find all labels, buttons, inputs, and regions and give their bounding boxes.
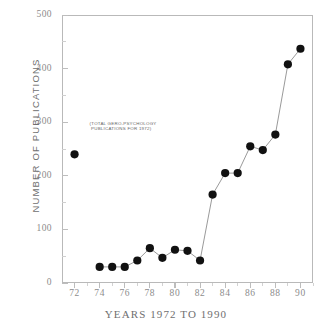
x-tick-label: 90 (287, 288, 313, 298)
x-tick-label: 74 (87, 288, 113, 298)
x-tick-minor (313, 283, 314, 286)
x-tick-label: 72 (62, 288, 88, 298)
y-tick-mark (62, 229, 68, 230)
x-tick-minor (287, 283, 288, 286)
y-tick-label: 0 (18, 278, 52, 287)
x-tick-minor (212, 283, 213, 286)
y-tick-minor (62, 95, 66, 96)
x-tick-minor (112, 283, 113, 286)
y-axis-title: NUMBER OF PUBLICATIONS (30, 31, 41, 241)
x-tick-label: 88 (262, 288, 288, 298)
y-tick-minor (62, 256, 66, 257)
chart-root: 0100200300400500 72747678808284868890 NU… (0, 0, 332, 331)
y-tick-mark (62, 283, 68, 284)
plot-frame (62, 15, 313, 283)
y-tick-label: 500 (18, 10, 52, 19)
y-tick-minor (62, 41, 66, 42)
x-tick-minor (237, 283, 238, 286)
y-tick-mark (62, 175, 68, 176)
x-tick-minor (262, 283, 263, 286)
x-tick-minor (87, 283, 88, 286)
x-tick-label: 76 (112, 288, 138, 298)
x-axis-title: YEARS 1972 TO 1990 (0, 308, 332, 320)
y-tick-mark (62, 15, 68, 16)
x-tick-label: 80 (162, 288, 188, 298)
x-tick-minor (162, 283, 163, 286)
x-tick-label: 86 (237, 288, 263, 298)
total-publications-1972-note: (TOTAL GERO-PSYCHOLOGY PUBLICATIONS FOR … (90, 121, 157, 132)
x-tick-label: 84 (212, 288, 238, 298)
y-tick-minor (62, 202, 66, 203)
y-tick-mark (62, 68, 68, 69)
y-tick-mark (62, 122, 68, 123)
x-tick-minor (187, 283, 188, 286)
x-tick-label: 78 (137, 288, 163, 298)
x-tick-label: 82 (187, 288, 213, 298)
x-tick-minor (137, 283, 138, 286)
y-tick-minor (62, 149, 66, 150)
